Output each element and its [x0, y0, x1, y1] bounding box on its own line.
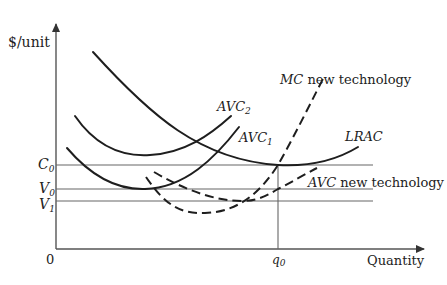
x-axis-label: Quantity	[367, 253, 425, 268]
y-axis-label: $/unit	[8, 34, 50, 50]
c0-label: C0	[38, 156, 55, 174]
mc-new-technology-label: MC new technology	[279, 72, 412, 87]
v1-label: V1	[39, 196, 55, 214]
lrac-label: LRAC	[344, 129, 383, 144]
mc-new-technology-curve	[146, 75, 325, 213]
avc1-label: AVC1	[238, 130, 273, 147]
origin-label: 0	[46, 252, 54, 267]
avc-new-technology-label: AVC new technology	[307, 175, 445, 190]
avc-new-technology-curve	[154, 168, 317, 201]
cost-curves-diagram: $/unit Quantity 0 C0 V0 V1 q0 AVC2 AVC1 …	[0, 0, 447, 285]
q0-label: q0	[272, 253, 286, 268]
avc2-label: AVC2	[216, 99, 251, 116]
avc2-curve	[75, 116, 231, 155]
